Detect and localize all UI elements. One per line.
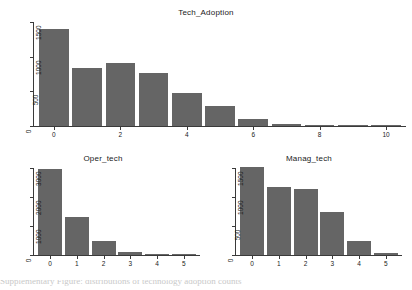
y-tick-oper-tech: [30, 255, 34, 256]
x-tick-manag-tech: [359, 256, 360, 259]
clipped-caption-text: Supplementary Figure: distributions of t…: [0, 280, 412, 286]
y-tick-manag-tech: [232, 197, 236, 198]
bar: [39, 29, 69, 126]
y-tick-manag-tech: [232, 168, 236, 169]
x-tick-label-oper-tech: 5: [182, 260, 186, 267]
bar: [272, 124, 302, 126]
bar: [145, 254, 169, 255]
y-tick-label-oper-tech: 3000: [35, 172, 42, 186]
x-tick-manag-tech: [306, 256, 307, 259]
y-tick-label-oper-tech: 1000: [35, 230, 42, 244]
bar: [320, 212, 344, 255]
x-tick-tech-adoption: [253, 127, 254, 130]
y-tick-label-tech-adoption: 500: [32, 95, 39, 106]
x-tick-oper-tech: [104, 256, 105, 259]
plot-area-oper-tech: 0123450100020003000: [34, 168, 200, 255]
x-tick-manag-tech: [386, 256, 387, 259]
chart-panel-manag-tech: Manag_tech 012345050010001500: [206, 148, 412, 280]
y-tick-tech-adoption: [30, 126, 34, 127]
bar: [106, 63, 136, 126]
chart-panel-tech-adoption: Tech_Adoption 0246810050010001500: [0, 2, 412, 145]
x-tick-label-oper-tech: 2: [102, 260, 106, 267]
x-tick-label-oper-tech: 3: [129, 260, 133, 267]
x-tick-label-manag-tech: 3: [331, 260, 335, 267]
x-tick-tech-adoption: [120, 127, 121, 130]
x-tick-manag-tech: [252, 256, 253, 259]
x-tick-label-tech-adoption: 4: [185, 131, 189, 138]
x-tick-oper-tech: [184, 256, 185, 259]
x-tick-oper-tech: [50, 256, 51, 259]
bar: [72, 68, 102, 126]
bar: [139, 73, 169, 126]
y-tick-label-tech-adoption: 1500: [35, 26, 42, 40]
bar: [205, 106, 235, 126]
x-tick-label-manag-tech: 4: [357, 260, 361, 267]
bar: [172, 93, 202, 126]
chart-title-tech-adoption: Tech_Adoption: [0, 8, 412, 17]
chart-title-manag-tech: Manag_tech: [206, 154, 412, 163]
bar: [338, 125, 368, 126]
x-tick-label-manag-tech: 2: [304, 260, 308, 267]
y-tick-tech-adoption: [30, 57, 34, 58]
y-tick-oper-tech: [30, 226, 34, 227]
clipped-caption: Supplementary Figure: distributions of t…: [0, 280, 412, 290]
bar: [294, 189, 318, 255]
bar: [374, 253, 398, 255]
x-tick-label-tech-adoption: 2: [119, 131, 123, 138]
y-axis-line-tech-adoption: [33, 22, 34, 126]
y-tick-label-tech-adoption: 0: [25, 130, 32, 134]
bar: [305, 125, 335, 126]
y-tick-manag-tech: [232, 255, 236, 256]
x-tick-oper-tech: [77, 256, 78, 259]
x-tick-label-tech-adoption: 10: [382, 131, 389, 138]
x-tick-label-oper-tech: 1: [75, 260, 79, 267]
bar: [92, 241, 116, 256]
bar: [172, 254, 196, 255]
bar: [238, 119, 268, 126]
x-tick-label-manag-tech: 1: [277, 260, 281, 267]
x-tick-label-oper-tech: 0: [48, 260, 52, 267]
y-axis-line-oper-tech: [33, 168, 34, 255]
bar: [347, 241, 371, 256]
x-axis-line-tech-adoption: [34, 126, 406, 127]
bar: [65, 217, 89, 255]
y-tick-manag-tech: [232, 226, 236, 227]
y-tick-label-oper-tech: 2000: [35, 201, 42, 215]
y-tick-tech-adoption: [30, 91, 34, 92]
y-tick-label-manag-tech: 1000: [237, 201, 244, 215]
y-tick-tech-adoption: [30, 22, 34, 23]
x-tick-label-tech-adoption: 6: [251, 131, 255, 138]
y-tick-label-manag-tech: 0: [227, 259, 234, 263]
x-tick-tech-adoption: [54, 127, 55, 130]
x-axis-line-manag-tech: [236, 255, 402, 256]
x-tick-tech-adoption: [386, 127, 387, 130]
y-tick-label-manag-tech: 1500: [237, 172, 244, 186]
y-tick-label-oper-tech: 0: [25, 259, 32, 263]
x-tick-label-oper-tech: 4: [155, 260, 159, 267]
x-tick-label-tech-adoption: 0: [52, 131, 56, 138]
plot-area-manag-tech: 012345050010001500: [236, 168, 402, 255]
y-axis-line-manag-tech: [235, 168, 236, 255]
y-tick-oper-tech: [30, 168, 34, 169]
y-tick-label-manag-tech: 500: [234, 230, 241, 241]
y-tick-label-tech-adoption: 1000: [35, 60, 42, 74]
x-tick-oper-tech: [157, 256, 158, 259]
x-tick-manag-tech: [332, 256, 333, 259]
bar: [118, 252, 142, 255]
x-tick-tech-adoption: [187, 127, 188, 130]
plot-area-tech-adoption: 0246810050010001500: [34, 22, 406, 126]
x-axis-line-oper-tech: [34, 255, 200, 256]
x-tick-oper-tech: [130, 256, 131, 259]
chart-title-oper-tech: Oper_tech: [0, 154, 206, 163]
y-tick-oper-tech: [30, 197, 34, 198]
chart-panel-oper-tech: Oper_tech 0123450100020003000: [0, 148, 206, 280]
x-tick-tech-adoption: [320, 127, 321, 130]
bar: [267, 187, 291, 255]
x-tick-label-manag-tech: 0: [250, 260, 254, 267]
x-tick-label-tech-adoption: 8: [318, 131, 322, 138]
x-tick-label-manag-tech: 5: [384, 260, 388, 267]
bar: [371, 125, 401, 126]
x-tick-manag-tech: [279, 256, 280, 259]
